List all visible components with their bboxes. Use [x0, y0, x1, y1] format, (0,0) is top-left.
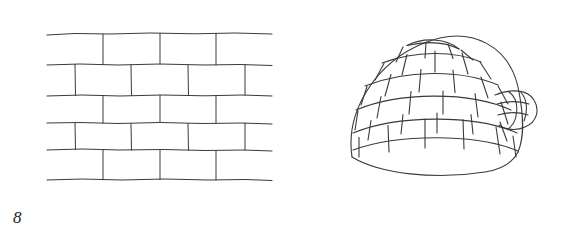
brick-wall-drawing	[0, 0, 285, 200]
igloo-row-3-joints	[361, 70, 508, 106]
worksheet-sheet: 8	[0, 0, 569, 235]
igloo-drawing	[285, 0, 569, 200]
wall-row-4-joints	[75, 123, 245, 150]
igloo-row-2-joints	[375, 51, 491, 80]
igloo-course-arc-5	[353, 138, 518, 151]
wall-row-5-joints	[103, 150, 216, 181]
igloo-base-line	[352, 152, 518, 176]
figure-panel-igloo: 9	[285, 0, 569, 235]
igloo-row-4-joints	[355, 91, 508, 130]
wall-line-3	[47, 123, 272, 125]
igloo-entrance-tunnel	[495, 91, 537, 130]
figure-caption-8: 8	[13, 208, 22, 228]
igloo-course-arc-2	[365, 73, 498, 86]
wall-row-2-joints	[75, 64, 245, 95]
igloo-course-arc-4	[353, 119, 517, 133]
figure-panel-brick-wall: 8	[0, 0, 285, 235]
wall-row-3-joints	[103, 95, 216, 123]
wall-row-1-joints	[103, 33, 216, 65]
